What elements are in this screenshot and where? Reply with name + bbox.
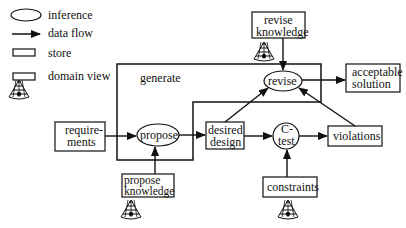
arrow-desired-design-to-revise bbox=[225, 88, 268, 122]
ellipse-icon bbox=[11, 9, 41, 21]
legend-item-domain-view: domain view bbox=[9, 69, 111, 99]
store-violations[interactable]: violations bbox=[328, 126, 382, 146]
data-flows bbox=[105, 38, 355, 177]
cone-icon bbox=[278, 200, 298, 219]
legend-item-data-flow: data flow bbox=[12, 26, 93, 40]
legend-label: domain view bbox=[48, 69, 111, 83]
inference-propose[interactable]: propose bbox=[137, 124, 179, 146]
svg-text:knowledge: knowledge bbox=[124, 185, 174, 198]
legend-item-store: store bbox=[13, 46, 71, 60]
inference-revise[interactable]: revise bbox=[264, 71, 302, 91]
svg-text:test: test bbox=[278, 134, 295, 148]
diagram-canvas: inference data flow store domain view ge… bbox=[0, 0, 406, 228]
generate-label: generate bbox=[140, 71, 181, 85]
legend-item-inference: inference bbox=[11, 8, 93, 22]
rectangle-icon bbox=[13, 49, 35, 56]
legend-label: store bbox=[48, 46, 71, 60]
svg-text:knowledge: knowledge bbox=[256, 25, 309, 39]
svg-text:design: design bbox=[210, 135, 241, 149]
svg-text:revise: revise bbox=[268, 74, 297, 88]
svg-text:violations: violations bbox=[333, 129, 381, 143]
svg-text:solution: solution bbox=[352, 77, 391, 91]
legend: inference data flow store domain view bbox=[9, 8, 111, 99]
store-desired-design[interactable]: desired design bbox=[206, 122, 244, 149]
cone-icon bbox=[254, 42, 274, 61]
svg-text:ments: ments bbox=[67, 135, 96, 149]
arrow-violations-to-revise bbox=[299, 88, 355, 126]
domain-view-revise-knowledge[interactable]: revise knowledge bbox=[252, 12, 309, 61]
inference-c-test[interactable]: C- test bbox=[273, 122, 299, 149]
cone-icon bbox=[121, 200, 141, 219]
store-requirements[interactable]: require- ments bbox=[55, 122, 105, 151]
cone-icon bbox=[9, 80, 29, 99]
legend-label: inference bbox=[48, 8, 93, 22]
svg-text:propose: propose bbox=[140, 128, 178, 142]
domain-view-propose-knowledge[interactable]: propose knowledge bbox=[121, 174, 174, 219]
rectangle-icon bbox=[13, 73, 35, 80]
store-acceptable-solution[interactable]: acceptable solution bbox=[346, 64, 403, 92]
legend-label: data flow bbox=[48, 26, 93, 40]
domain-view-constraints[interactable]: constraints bbox=[263, 177, 319, 219]
svg-text:constraints: constraints bbox=[267, 180, 319, 194]
